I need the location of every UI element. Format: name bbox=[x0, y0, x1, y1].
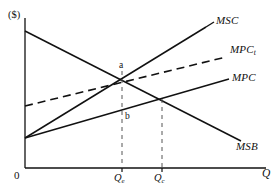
point-b-label: b bbox=[125, 112, 130, 122]
point-a-label: a bbox=[119, 61, 123, 71]
msc-label-leader bbox=[206, 22, 214, 27]
mpc-tax-curve-label: MPCt bbox=[230, 44, 256, 57]
economics-externality-diagram: ($) Q 0 MSC MPCt MPC MSB a b Qe Qc bbox=[0, 0, 277, 192]
origin-label: 0 bbox=[14, 170, 20, 181]
qe-tick-subscript: e bbox=[122, 177, 125, 185]
qe-tick-label: Qe bbox=[114, 173, 125, 185]
qc-tick-label: Qc bbox=[154, 173, 165, 185]
diagram-canvas bbox=[0, 0, 277, 192]
mpc-tax-label-subscript: t bbox=[254, 48, 256, 57]
mpc-curve-label: MPC bbox=[232, 72, 256, 83]
msb-curve-label: MSB bbox=[236, 141, 258, 152]
qc-tick-subscript: c bbox=[162, 177, 165, 185]
x-axis-label: Q bbox=[262, 168, 270, 180]
qc-tick-base: Q bbox=[154, 172, 162, 183]
y-axis-label: ($) bbox=[8, 10, 20, 21]
msc-curve-label: MSC bbox=[216, 15, 239, 26]
msb-curve bbox=[25, 31, 241, 141]
mpc-tax-label-base: MPC bbox=[230, 43, 254, 55]
qe-tick-base: Q bbox=[114, 172, 122, 183]
msc-curve bbox=[25, 27, 206, 138]
mpc-curve bbox=[25, 79, 229, 138]
